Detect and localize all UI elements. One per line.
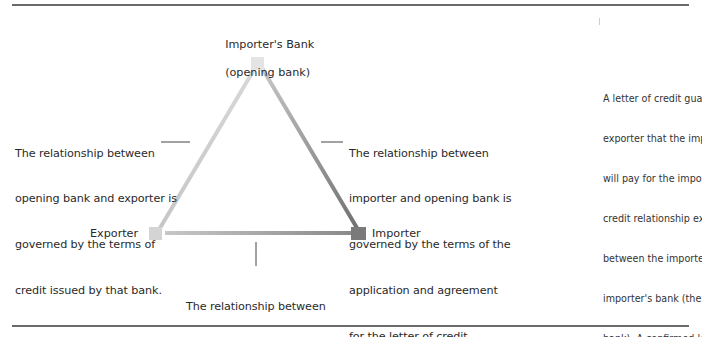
sidebar-line: between the importer and the <box>603 252 699 265</box>
edge-bank-importer <box>262 68 357 228</box>
margin-mark <box>599 18 600 25</box>
label-importers-bank-line1: Importer's Bank <box>225 38 314 51</box>
label-importers-bank: Importer's Bank (opening bank) <box>218 24 298 80</box>
sidebar-line: A letter of credit guarantees the <box>603 92 699 105</box>
annotation-left-line: The relationship between <box>15 146 177 161</box>
sidebar-line: importer's bank (the opening <box>603 292 699 305</box>
label-importers-bank-line2: (opening bank) <box>225 66 310 79</box>
annotation-right-line: for the letter of credit. <box>349 329 512 337</box>
annotation-right-line: application and agreement <box>349 283 512 298</box>
sidebar-body: A letter of credit guarantees the export… <box>603 66 699 337</box>
annotation-right-line: importer and opening bank is <box>349 191 512 206</box>
annotation-right-line: governed by the terms of the <box>349 237 512 252</box>
annotation-bottom-line: The relationship between <box>186 299 361 314</box>
sidebar-line: exporter that the importer's bank <box>603 132 699 145</box>
sidebar-note: A letter of credit guarantees the export… <box>603 39 699 337</box>
annotation-left-line: opening bank and exporter is <box>15 191 177 206</box>
annotation-left: The relationship between opening bank an… <box>15 115 177 314</box>
annotation-left-line: credit issued by that bank. <box>15 283 177 298</box>
sidebar-line: will pay for the imports. The <box>603 172 699 185</box>
annotation-left-line: governed by the terms of <box>15 237 177 252</box>
annotation-right: The relationship between importer and op… <box>349 115 512 337</box>
sidebar-line: bank). A confirmed letter of <box>603 332 699 337</box>
bottom-rule <box>12 325 689 327</box>
annotation-right-line: The relationship between <box>349 146 512 161</box>
sidebar-line: credit relationship exists <box>603 212 699 225</box>
